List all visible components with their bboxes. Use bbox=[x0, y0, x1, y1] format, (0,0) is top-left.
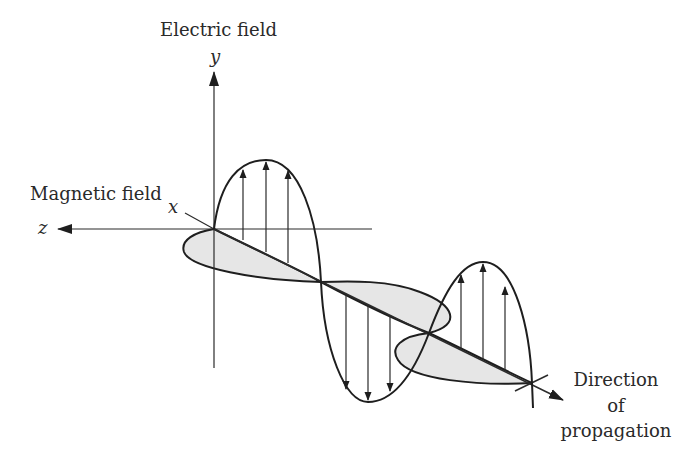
z-axis-label: z bbox=[37, 217, 48, 238]
magnetic-field-wave bbox=[183, 229, 532, 384]
em-wave-diagram: Electric field y Magnetic field x z Dire… bbox=[0, 0, 693, 476]
direction-label-line3: propagation bbox=[561, 420, 672, 441]
y-axis-label: y bbox=[209, 46, 221, 67]
x-axis-tail bbox=[185, 213, 214, 229]
x-axis-label: x bbox=[168, 196, 178, 217]
magnetic-field-label: Magnetic field bbox=[30, 183, 162, 204]
magnetic-loop-3 bbox=[395, 333, 532, 384]
propagation-axis bbox=[214, 229, 563, 400]
direction-label-line1: Direction bbox=[574, 369, 659, 390]
direction-label-line2: of bbox=[607, 395, 626, 416]
magnetic-loop-1 bbox=[183, 229, 321, 282]
electric-field-label: Electric field bbox=[160, 19, 277, 40]
axes bbox=[58, 72, 563, 400]
